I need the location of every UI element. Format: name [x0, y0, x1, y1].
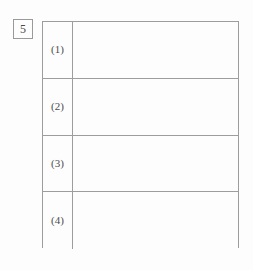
row-label-3: (3)	[51, 158, 64, 169]
row-label-cell: (1)	[43, 22, 73, 78]
question-number: 5	[20, 23, 26, 35]
answer-cell-4[interactable]	[73, 192, 238, 249]
row-label-2: (2)	[51, 101, 64, 112]
table-row: (2)	[43, 79, 238, 136]
question-number-box: 5	[13, 19, 33, 39]
row-label-cell: (3)	[43, 136, 73, 192]
row-label-cell: (4)	[43, 192, 73, 249]
row-label-cell: (2)	[43, 79, 73, 135]
answer-cell-2[interactable]	[73, 79, 238, 135]
answer-cell-1[interactable]	[73, 22, 238, 78]
worksheet-page: 5 (1) (2) (3) (4)	[0, 0, 253, 270]
row-label-4: (4)	[51, 215, 64, 226]
row-label-1: (1)	[51, 44, 64, 55]
answer-table: (1) (2) (3) (4)	[42, 21, 239, 248]
table-row: (1)	[43, 22, 238, 79]
table-row: (3)	[43, 136, 238, 193]
table-row: (4)	[43, 192, 238, 249]
answer-cell-3[interactable]	[73, 136, 238, 192]
